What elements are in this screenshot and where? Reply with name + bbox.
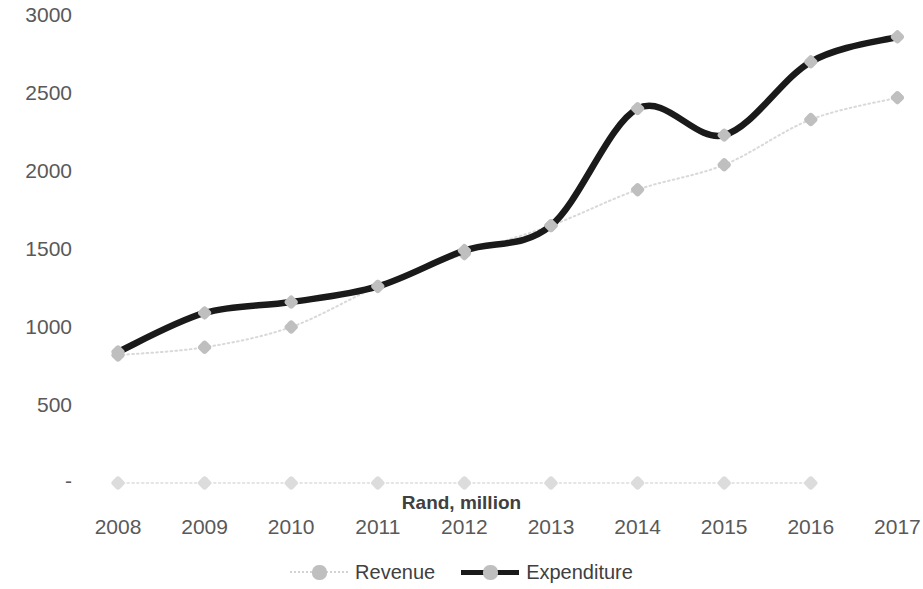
revenue-line-icon [290, 563, 348, 581]
x-axis-tick: 2012 [441, 516, 488, 537]
x-axis-tick: 2016 [787, 516, 834, 537]
line-chart: -50010001500200025003000 200820092010201… [0, 0, 923, 589]
x-axis-tick: 2008 [95, 516, 142, 537]
x-axis-tick: 2013 [528, 516, 575, 537]
x-axis-tick: 2011 [355, 516, 400, 537]
legend-item-expenditure[interactable]: Expenditure [461, 562, 633, 582]
x-axis-tick: 2010 [268, 516, 315, 537]
x-axis-tick: 2015 [701, 516, 748, 537]
x-axis-tick: 2017 [874, 516, 921, 537]
x-axis-tick: 2009 [181, 516, 228, 537]
x-axis-tick: 2014 [614, 516, 661, 537]
expenditure-line-icon [461, 563, 519, 581]
legend-label-revenue: Revenue [355, 562, 435, 582]
x-axis-title: Rand, million [0, 493, 923, 512]
chart-legend: Revenue Expenditure [0, 562, 923, 582]
legend-label-expenditure: Expenditure [526, 562, 633, 582]
legend-item-revenue[interactable]: Revenue [290, 562, 435, 582]
